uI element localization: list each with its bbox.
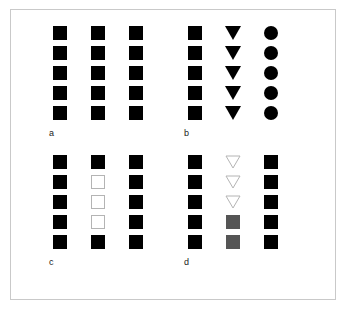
panel-d-label: d bbox=[183, 257, 283, 268]
square-filled-icon bbox=[129, 66, 143, 80]
square-filled-icon bbox=[188, 106, 202, 120]
triangle-down-filled-icon bbox=[225, 106, 241, 120]
panel-c-column-3 bbox=[124, 155, 148, 249]
square-filled-icon bbox=[91, 86, 105, 100]
square-filled-icon bbox=[53, 26, 67, 40]
square-filled-icon bbox=[129, 195, 143, 209]
circle-filled-icon bbox=[264, 66, 278, 80]
triangle-down-open-icon bbox=[226, 155, 240, 169]
square-filled-icon bbox=[264, 195, 278, 209]
panel-d-column-2 bbox=[221, 155, 245, 249]
square-filled-icon bbox=[264, 215, 278, 229]
square-filled-icon bbox=[53, 106, 67, 120]
circle-filled-icon bbox=[264, 106, 278, 120]
square-filled-icon bbox=[53, 46, 67, 60]
square-filled-icon bbox=[188, 26, 202, 40]
square-filled-icon bbox=[188, 195, 202, 209]
triangle-down-filled-icon bbox=[225, 46, 241, 60]
square-filled-icon bbox=[188, 66, 202, 80]
panel-d-columns bbox=[183, 155, 283, 249]
square-filled-icon bbox=[53, 195, 67, 209]
panel-d: d bbox=[183, 155, 283, 268]
square-filled-icon bbox=[129, 86, 143, 100]
panel-c-label: c bbox=[48, 257, 148, 268]
panel-b-column-3 bbox=[259, 26, 283, 120]
panel-c-column-1 bbox=[48, 155, 72, 249]
square-filled-icon bbox=[91, 66, 105, 80]
square-filled-icon bbox=[53, 235, 67, 249]
panel-c-columns bbox=[48, 155, 148, 249]
triangle-down-filled-icon bbox=[225, 66, 241, 80]
square-filled-icon bbox=[129, 46, 143, 60]
triangle-down-open-icon bbox=[226, 175, 240, 189]
square-filled-icon bbox=[91, 155, 105, 169]
triangle-down-open-icon bbox=[226, 195, 240, 209]
square-filled-icon bbox=[188, 235, 202, 249]
square-open-icon bbox=[91, 175, 105, 189]
panel-b-column-1 bbox=[183, 26, 207, 120]
panel-b-column-2 bbox=[221, 26, 245, 120]
square-filled-icon bbox=[53, 215, 67, 229]
panel-a: a bbox=[48, 26, 148, 139]
panel-b-label: b bbox=[183, 128, 283, 139]
square-filled-icon bbox=[129, 155, 143, 169]
panel-b-columns bbox=[183, 26, 283, 120]
square-filled-icon bbox=[264, 155, 278, 169]
panel-d-column-1 bbox=[183, 155, 207, 249]
panel-a-column-3 bbox=[124, 26, 148, 120]
square-open-icon bbox=[91, 215, 105, 229]
square-filled-icon bbox=[129, 175, 143, 189]
triangle-down-filled-icon bbox=[225, 86, 241, 100]
square-filled-icon bbox=[53, 86, 67, 100]
square-gray-icon bbox=[226, 215, 240, 229]
panel-a-label: a bbox=[48, 128, 148, 139]
panel-c-column-2 bbox=[86, 155, 110, 249]
panel-a-column-1 bbox=[48, 26, 72, 120]
square-filled-icon bbox=[91, 235, 105, 249]
square-filled-icon bbox=[129, 26, 143, 40]
square-filled-icon bbox=[188, 86, 202, 100]
square-filled-icon bbox=[129, 235, 143, 249]
square-filled-icon bbox=[188, 155, 202, 169]
figure-root: a b c d bbox=[0, 0, 347, 319]
square-filled-icon bbox=[129, 215, 143, 229]
panel-d-column-3 bbox=[259, 155, 283, 249]
square-filled-icon bbox=[188, 215, 202, 229]
circle-filled-icon bbox=[264, 46, 278, 60]
square-filled-icon bbox=[264, 175, 278, 189]
square-filled-icon bbox=[188, 175, 202, 189]
square-filled-icon bbox=[188, 46, 202, 60]
panel-a-columns bbox=[48, 26, 148, 120]
square-filled-icon bbox=[91, 46, 105, 60]
square-filled-icon bbox=[53, 175, 67, 189]
square-filled-icon bbox=[53, 155, 67, 169]
square-open-icon bbox=[91, 195, 105, 209]
triangle-down-filled-icon bbox=[225, 26, 241, 40]
panel-b: b bbox=[183, 26, 283, 139]
panel-c: c bbox=[48, 155, 148, 268]
square-filled-icon bbox=[53, 66, 67, 80]
circle-filled-icon bbox=[264, 26, 278, 40]
square-gray-icon bbox=[226, 235, 240, 249]
square-filled-icon bbox=[264, 235, 278, 249]
square-filled-icon bbox=[91, 26, 105, 40]
panel-a-column-2 bbox=[86, 26, 110, 120]
square-filled-icon bbox=[129, 106, 143, 120]
square-filled-icon bbox=[91, 106, 105, 120]
circle-filled-icon bbox=[264, 86, 278, 100]
